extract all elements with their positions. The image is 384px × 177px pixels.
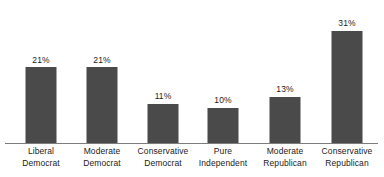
category-label-1-line2: Democrat (83, 158, 121, 170)
bar-rect-4[interactable] (270, 97, 301, 144)
bar-value-label-3: 10% (214, 96, 231, 105)
bar-value-label-4: 13% (276, 85, 293, 94)
category-label-5-line2: Republican (322, 158, 373, 170)
bar-value-label-2: 11% (155, 92, 172, 101)
category-label-0-line1: Liberal (28, 146, 54, 156)
bar-rect-0[interactable] (26, 67, 57, 144)
category-label-0-line2: Democrat (22, 158, 60, 170)
bar-rect-3[interactable] (208, 108, 239, 145)
bar-group-4[interactable]: 13% (270, 0, 301, 144)
category-label-2-line1: Conservative (138, 146, 189, 156)
bar-chart: 21% 21% 11% 10% 13% 31% Liberal Democrat (0, 0, 384, 177)
category-label-5: Conservative Republican (322, 146, 373, 169)
bar-group-0[interactable]: 21% (26, 0, 57, 144)
bar-rect-5[interactable] (332, 31, 363, 144)
category-label-1-line1: Moderate (84, 146, 121, 156)
plot-area: 21% 21% 11% 10% 13% 31% (0, 0, 384, 144)
category-label-1: Moderate Democrat (83, 146, 121, 169)
bar-group-3[interactable]: 10% (208, 0, 239, 144)
bar-rect-1[interactable] (87, 67, 118, 144)
category-label-3-line1: Pure (214, 146, 232, 156)
category-label-2: Conservative Democrat (138, 146, 189, 169)
category-label-4: Moderate Republican (263, 146, 307, 169)
category-label-2-line2: Democrat (138, 158, 189, 170)
category-axis: Liberal Democrat Moderate Democrat Conse… (0, 146, 384, 177)
category-label-4-line1: Moderate (267, 146, 304, 156)
category-label-5-line1: Conservative (322, 146, 373, 156)
category-label-3: Pure Independent (199, 146, 247, 169)
bar-group-5[interactable]: 31% (332, 0, 363, 144)
category-label-3-line2: Independent (199, 158, 247, 170)
bar-group-2[interactable]: 11% (148, 0, 179, 144)
x-axis-line (5, 143, 378, 144)
category-label-4-line2: Republican (263, 158, 307, 170)
bar-value-label-1: 21% (93, 56, 110, 65)
bar-rect-2[interactable] (148, 104, 179, 144)
category-label-0: Liberal Democrat (22, 146, 60, 169)
bar-value-label-0: 21% (32, 56, 49, 65)
bar-value-label-5: 31% (338, 19, 355, 28)
bar-group-1[interactable]: 21% (87, 0, 118, 144)
